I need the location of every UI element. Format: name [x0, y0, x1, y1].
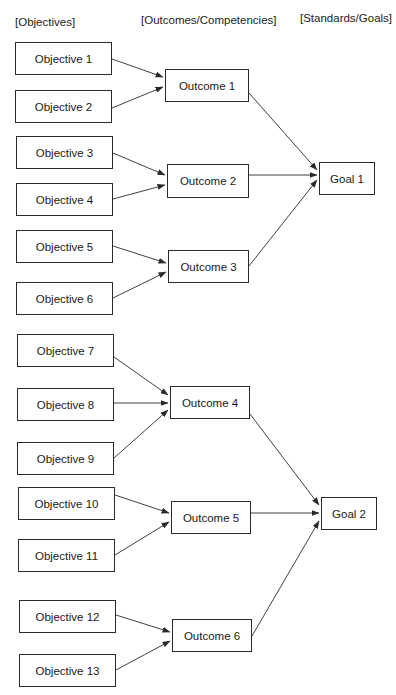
arrow-connector — [114, 410, 168, 458]
objective-box: Objective 11 — [18, 539, 115, 572]
objective-label: Objective 3 — [36, 147, 94, 159]
objective-box: Objective 7 — [17, 334, 114, 367]
objective-box: Objective 9 — [17, 442, 114, 475]
arrow-connector — [116, 641, 170, 670]
arrow-connector — [115, 522, 169, 555]
outcome-box: Outcome 3 — [168, 250, 249, 283]
outcome-box: Outcome 4 — [170, 386, 250, 419]
objectives-column-header: [Objectives] — [15, 16, 75, 28]
outcomes-column-header: [Outcomes/Competencies] — [141, 14, 277, 26]
objective-label: Objective 13 — [36, 665, 100, 677]
objective-label: Objective 4 — [36, 194, 94, 206]
outcome-label: Outcome 4 — [182, 397, 238, 409]
arrow-connector — [249, 180, 317, 266]
objective-label: Objective 1 — [35, 53, 93, 65]
outcome-label: Outcome 5 — [183, 512, 239, 524]
arrow-connector — [252, 521, 319, 636]
objective-box: Objective 1 — [15, 42, 112, 75]
outcome-label: Outcome 6 — [184, 630, 240, 642]
objective-box: Objective 10 — [18, 487, 115, 520]
objective-label: Objective 7 — [37, 345, 95, 357]
arrow-connector — [250, 414, 319, 505]
objective-label: Objective 12 — [36, 611, 100, 623]
arrow-connector — [113, 185, 165, 199]
objective-box: Objective 6 — [16, 282, 113, 315]
arrow-connector — [116, 615, 170, 632]
arrow-connector — [249, 93, 317, 170]
objective-box: Objective 8 — [17, 388, 114, 421]
outcome-label: Outcome 3 — [180, 261, 236, 273]
objective-label: Objective 6 — [36, 293, 94, 305]
objective-label: Objective 10 — [35, 498, 99, 510]
objective-label: Objective 9 — [37, 453, 95, 465]
objective-label: Objective 8 — [37, 399, 95, 411]
arrow-connector — [114, 357, 168, 395]
goal-box: Goal 2 — [321, 497, 377, 530]
objective-box: Objective 5 — [16, 230, 113, 263]
arrow-connector — [113, 272, 166, 298]
objective-box: Objective 2 — [15, 90, 112, 123]
alignment-diagram: [Objectives] [Outcomes/Competencies] [St… — [0, 0, 396, 695]
goal-label: Goal 1 — [330, 173, 364, 185]
objective-label: Objective 2 — [35, 101, 93, 113]
objective-box: Objective 3 — [16, 136, 113, 169]
objective-box: Objective 13 — [19, 654, 116, 687]
arrow-connector — [112, 87, 163, 108]
goals-column-header: [Standards/Goals] — [300, 12, 392, 24]
goal-box: Goal 1 — [319, 162, 375, 195]
outcome-label: Outcome 2 — [180, 175, 236, 187]
outcome-box: Outcome 5 — [171, 501, 251, 534]
objective-label: Objective 11 — [35, 550, 98, 562]
outcome-box: Outcome 1 — [165, 69, 249, 102]
arrow-connector — [115, 495, 169, 513]
outcome-box: Outcome 6 — [172, 619, 252, 652]
goal-label: Goal 2 — [332, 508, 366, 520]
objective-box: Objective 4 — [16, 183, 113, 216]
outcome-box: Outcome 2 — [167, 164, 249, 198]
arrow-connector — [113, 153, 165, 175]
objective-label: Objective 5 — [36, 241, 94, 253]
outcome-label: Outcome 1 — [179, 80, 235, 92]
objective-box: Objective 12 — [19, 600, 116, 633]
arrow-connector — [113, 246, 166, 263]
arrow-connector — [112, 59, 163, 77]
